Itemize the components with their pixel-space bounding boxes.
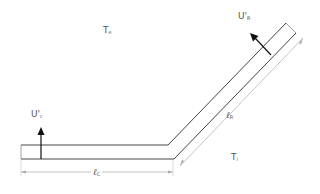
diagram-graphic	[0, 0, 320, 194]
bent-wall-diagram: Te Ti U'c U'R ℓC ℓR	[0, 0, 320, 194]
uc-arrow	[38, 127, 45, 159]
label-exterior-temperature: Te	[103, 26, 112, 35]
label-ur: U'R	[238, 12, 251, 21]
label-uc: U'c	[31, 110, 43, 119]
label-interior-temperature: Ti	[231, 153, 238, 162]
dimension-line-lr	[180, 38, 303, 166]
label-lc: ℓC	[91, 168, 102, 177]
label-lr: ℓR	[226, 111, 233, 120]
ur-arrow	[250, 33, 271, 55]
roof-wall-section	[168, 23, 296, 159]
ceiling-wall-section	[21, 145, 174, 159]
